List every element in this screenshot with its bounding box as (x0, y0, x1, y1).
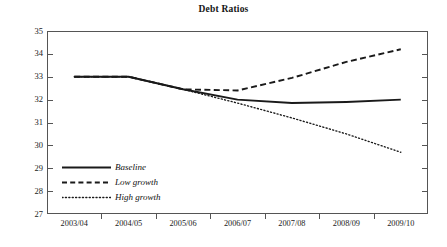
y-tick-mark (47, 123, 53, 124)
y-tick-mark-right (422, 54, 428, 55)
legend-label-low-growth: Low growth (115, 175, 158, 190)
dashed-line-sample (62, 181, 111, 184)
y-tick-mark-right (422, 168, 428, 169)
y-tick-mark-right (422, 145, 428, 146)
chart-container: Debt Ratios 353433323130292827 Baseline … (0, 0, 447, 247)
dotted-line-sample (62, 196, 111, 199)
y-tick-mark (47, 54, 53, 55)
series-line-high-growth (74, 77, 401, 152)
y-tick-mark (47, 77, 53, 78)
y-tick-mark (47, 191, 53, 192)
y-tick-mark (47, 168, 53, 169)
solid-line-sample (62, 166, 111, 169)
legend-label-high-growth: High growth (115, 190, 160, 205)
y-tick-mark-right (422, 123, 428, 124)
y-tick-mark-right (422, 100, 428, 101)
legend-label-baseline: Baseline (115, 160, 146, 175)
series-line-low-growth (74, 49, 401, 90)
y-tick-mark-right (422, 77, 428, 78)
y-tick-mark-right (422, 191, 428, 192)
x-tick-label: 2009/10 (366, 219, 436, 228)
series-layer (0, 0, 447, 247)
y-tick-mark (47, 145, 53, 146)
y-tick-mark (47, 100, 53, 101)
